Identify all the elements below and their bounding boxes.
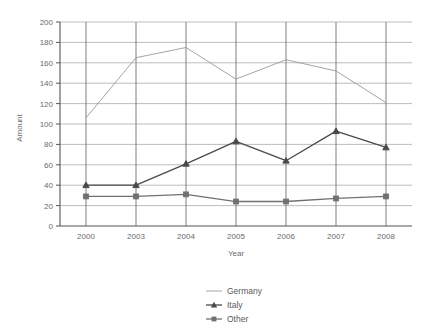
y-tick-label: 80 bbox=[44, 140, 53, 149]
y-tick-label: 100 bbox=[40, 120, 54, 129]
y-tick-label: 60 bbox=[44, 161, 53, 170]
y-axis-title: Amount bbox=[15, 113, 24, 141]
x-tick-label: 2000 bbox=[77, 232, 95, 241]
legend-label: Germany bbox=[227, 286, 263, 296]
y-tick-label: 40 bbox=[44, 181, 53, 190]
legend-label: Italy bbox=[227, 300, 243, 310]
legend-label: Other bbox=[227, 314, 248, 324]
y-tick-label: 180 bbox=[40, 38, 54, 47]
x-tick-label: 2007 bbox=[327, 232, 345, 241]
data-point-marker bbox=[284, 199, 289, 204]
y-tick-label: 160 bbox=[40, 59, 54, 68]
data-point-marker bbox=[234, 199, 239, 204]
data-point-marker bbox=[184, 192, 189, 197]
x-tick-label: 2005 bbox=[227, 232, 245, 241]
x-tick-label: 2006 bbox=[277, 232, 295, 241]
data-point-marker bbox=[384, 194, 389, 199]
y-tick-label: 200 bbox=[40, 18, 54, 27]
x-tick-label: 2003 bbox=[127, 232, 145, 241]
x-axis-title: Year bbox=[228, 249, 245, 258]
chart-canvas: 020406080100120140160180200 200020032004… bbox=[0, 0, 442, 334]
y-tick-label: 20 bbox=[44, 202, 53, 211]
data-point-marker bbox=[334, 196, 339, 201]
line-chart: 020406080100120140160180200 200020032004… bbox=[0, 0, 442, 334]
y-tick-label: 140 bbox=[40, 79, 54, 88]
data-point-marker bbox=[134, 194, 139, 199]
chart-background bbox=[0, 0, 442, 334]
legend-square-marker-icon bbox=[212, 317, 217, 322]
x-tick-label: 2008 bbox=[377, 232, 395, 241]
data-point-marker bbox=[84, 194, 89, 199]
y-tick-label: 0 bbox=[49, 222, 54, 231]
y-tick-label: 120 bbox=[40, 100, 54, 109]
x-tick-label: 2004 bbox=[177, 232, 195, 241]
